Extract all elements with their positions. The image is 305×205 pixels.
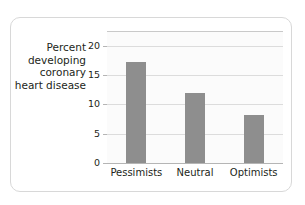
x-axis-line — [107, 163, 283, 164]
y-tick-label: 15 — [74, 70, 100, 80]
bar-pessimists — [126, 62, 146, 163]
y-tick-label: 0 — [74, 158, 100, 168]
bar-optimists — [244, 115, 264, 163]
y-tick-label: 5 — [74, 129, 100, 139]
x-tick-label-neutral: Neutral — [166, 167, 225, 179]
x-tick-label-pessimists: Pessimists — [107, 167, 166, 179]
bar-neutral — [185, 93, 205, 163]
x-tick-label-optimists: Optimists — [224, 167, 283, 179]
plot-inner — [107, 31, 283, 163]
y-tick-mark — [103, 134, 107, 135]
y-tick-mark — [103, 163, 107, 164]
y-tick-label: 20 — [74, 41, 100, 51]
y-tick-mark — [103, 75, 107, 76]
y-tick-mark — [103, 46, 107, 47]
y-tick-label: 10 — [74, 99, 100, 109]
chart-figure: Percent developing coronary heart diseas… — [0, 0, 305, 205]
gridline — [107, 46, 283, 47]
plot-area — [107, 31, 283, 163]
y-tick-mark — [103, 104, 107, 105]
